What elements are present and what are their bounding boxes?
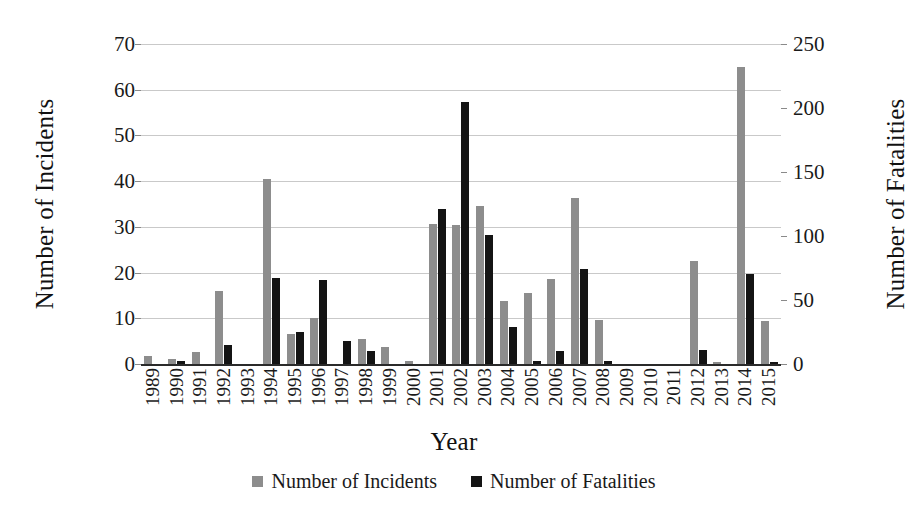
bar-group[interactable] [165, 44, 189, 364]
x-axis-title: Year [0, 428, 908, 456]
bar-group[interactable] [331, 44, 355, 364]
bar-fatalities[interactable] [343, 341, 351, 364]
x-axis-tick-label: 1997 [331, 368, 353, 406]
bar-group[interactable] [497, 44, 521, 364]
x-axis-tick-cell: 2008 [591, 368, 615, 426]
bar-group[interactable] [734, 44, 758, 364]
bar-group[interactable] [520, 44, 544, 364]
x-axis-tick-cell: 1989 [141, 368, 165, 426]
x-axis-tick-cell: 1991 [188, 368, 212, 426]
bar-group[interactable] [544, 44, 568, 364]
x-axis-tick-cell: 2001 [425, 368, 449, 426]
x-axis-tick-label: 2014 [734, 368, 756, 406]
x-axis-tick-cell: 2007 [568, 368, 592, 426]
bar-fatalities[interactable] [224, 345, 232, 364]
y-axis-right-tick-label: 150 [793, 161, 863, 183]
bar-incidents[interactable] [524, 293, 532, 364]
bar-fatalities[interactable] [580, 269, 588, 364]
bar-group[interactable] [615, 44, 639, 364]
bar-group[interactable] [141, 44, 165, 364]
bar-fatalities[interactable] [509, 327, 517, 364]
x-axis-tick-label: 2012 [687, 368, 709, 406]
y-axis-left-tick-mark [135, 44, 141, 45]
bar-group[interactable] [686, 44, 710, 364]
bar-fatalities[interactable] [485, 235, 493, 364]
bar-group[interactable] [710, 44, 734, 364]
legend-item[interactable]: Number of Incidents [252, 470, 437, 493]
bar-group[interactable] [425, 44, 449, 364]
bar-group[interactable] [568, 44, 592, 364]
y-axis-left-tick-mark [135, 181, 141, 182]
bar-incidents[interactable] [452, 225, 460, 364]
bar-fatalities[interactable] [604, 361, 612, 364]
x-axis-tick-label: 2003 [474, 368, 496, 406]
bar-group[interactable] [236, 44, 260, 364]
bar-incidents[interactable] [358, 339, 366, 364]
bar-fatalities[interactable] [319, 280, 327, 364]
bar-incidents[interactable] [761, 321, 769, 364]
bar-group[interactable] [307, 44, 331, 364]
bar-fatalities[interactable] [770, 362, 778, 364]
y-axis-left-tick-label: 70 [75, 33, 135, 55]
y-axis-left-tick-mark [135, 364, 141, 365]
x-axis-tick-labels: 1989199019911992199319941995199619971998… [141, 368, 781, 426]
y-axis-right-tick-mark [781, 108, 787, 109]
bar-group[interactable] [402, 44, 426, 364]
bar-incidents[interactable] [168, 359, 176, 364]
bar-group[interactable] [378, 44, 402, 364]
bar-incidents[interactable] [144, 356, 152, 364]
bar-group[interactable] [591, 44, 615, 364]
bar-incidents[interactable] [192, 352, 200, 364]
x-axis-tick-label: 2007 [569, 368, 591, 406]
bar-incidents[interactable] [287, 334, 295, 364]
bar-incidents[interactable] [263, 179, 271, 364]
x-axis-tick-label: 2015 [758, 368, 780, 406]
bar-series-container [141, 44, 781, 364]
bar-fatalities[interactable] [367, 351, 375, 364]
bar-incidents[interactable] [381, 347, 389, 364]
bar-incidents[interactable] [571, 198, 579, 364]
legend-label: Number of Fatalities [490, 470, 656, 493]
bar-fatalities[interactable] [438, 209, 446, 364]
y-axis-left-tick-mark [135, 90, 141, 91]
bar-group[interactable] [473, 44, 497, 364]
bar-incidents[interactable] [476, 206, 484, 364]
bar-fatalities[interactable] [272, 278, 280, 364]
bar-fatalities[interactable] [556, 351, 564, 364]
bar-incidents[interactable] [547, 279, 555, 364]
bar-incidents[interactable] [595, 320, 603, 364]
bar-incidents[interactable] [215, 291, 223, 364]
bar-group[interactable] [639, 44, 663, 364]
x-axis-tick-label: 2000 [403, 368, 425, 406]
legend-item[interactable]: Number of Fatalities [471, 470, 656, 493]
bar-group[interactable] [757, 44, 781, 364]
x-axis-tick-label: 2004 [497, 368, 519, 406]
bar-fatalities[interactable] [746, 274, 754, 364]
bar-incidents[interactable] [500, 301, 508, 364]
bar-fatalities[interactable] [461, 102, 469, 364]
bar-fatalities[interactable] [699, 350, 707, 364]
x-axis-tick-cell: 1990 [165, 368, 189, 426]
bar-incidents[interactable] [713, 362, 721, 364]
bar-group[interactable] [212, 44, 236, 364]
bar-group[interactable] [662, 44, 686, 364]
bar-group[interactable] [354, 44, 378, 364]
bar-incidents[interactable] [310, 318, 318, 364]
bar-fatalities[interactable] [177, 361, 185, 364]
bar-incidents[interactable] [690, 261, 698, 364]
bar-group[interactable] [449, 44, 473, 364]
bar-group[interactable] [188, 44, 212, 364]
bar-incidents[interactable] [737, 67, 745, 364]
bar-fatalities[interactable] [296, 332, 304, 364]
x-axis-tick-cell: 2015 [757, 368, 781, 426]
bar-fatalities[interactable] [533, 361, 541, 364]
x-axis-tick-cell: 2006 [544, 368, 568, 426]
bar-incidents[interactable] [429, 224, 437, 364]
bar-incidents[interactable] [405, 361, 413, 364]
bar-group[interactable] [260, 44, 284, 364]
x-axis-tick-cell: 2002 [449, 368, 473, 426]
bar-group[interactable] [283, 44, 307, 364]
x-axis-tick-label: 1989 [142, 368, 164, 406]
x-axis-tick-cell: 1996 [307, 368, 331, 426]
x-axis-tick-cell: 1998 [354, 368, 378, 426]
